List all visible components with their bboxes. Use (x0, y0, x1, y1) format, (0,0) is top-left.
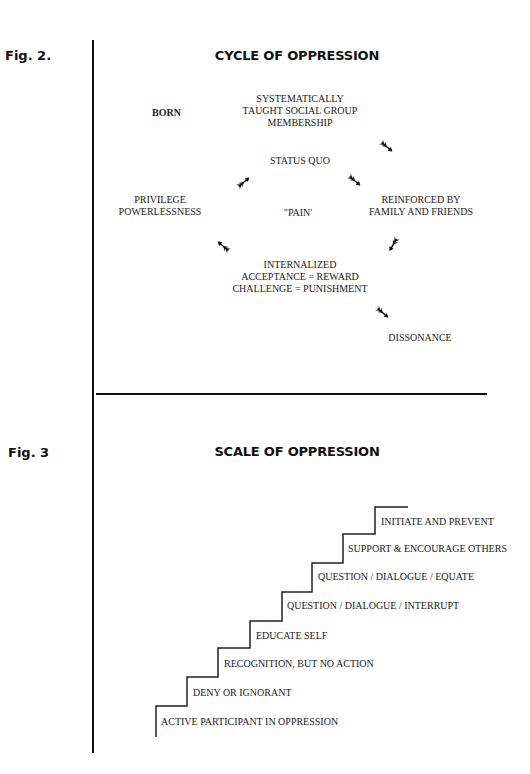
step-label: ACTIVE PARTICIPANT IN OPPRESSION (161, 716, 338, 728)
step-label: QUESTION / DIALOGUE / INTERRUPT (287, 600, 459, 612)
step-label: INITIATE AND PREVENT (381, 516, 494, 528)
step-label: RECOGNITION, BUT NO ACTION (224, 658, 374, 670)
step-label: SUPPORT & ENCOURAGE OTHERS (348, 543, 507, 555)
step-label: DENY OR IGNORANT (193, 687, 292, 699)
step-label: QUESTION / DIALOGUE / EQUATE (318, 571, 474, 583)
step-label: EDUCATE SELF (256, 630, 327, 642)
staircase-line (156, 507, 408, 737)
